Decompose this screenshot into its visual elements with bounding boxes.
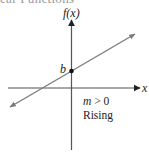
slope-condition: m > 0 [83, 95, 110, 107]
rising-label: Rising [83, 109, 113, 122]
x-axis-label: x [141, 81, 148, 95]
y-axis-label: f(x) [63, 6, 80, 20]
y-intercept-point [69, 69, 74, 74]
intercept-label: b [60, 62, 66, 76]
linear-function-diagram: f(x) x b m > 0 Rising [0, 0, 149, 153]
